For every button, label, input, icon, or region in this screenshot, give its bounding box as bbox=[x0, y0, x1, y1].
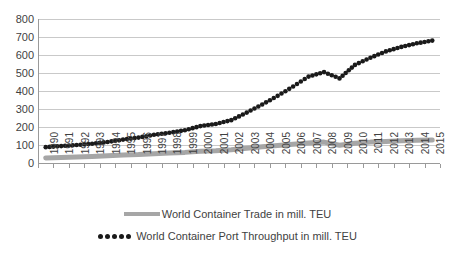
x-tickmark bbox=[115, 164, 116, 168]
x-tickmark bbox=[409, 164, 410, 168]
y-tick-label: 800 bbox=[0, 14, 34, 25]
x-tick-label: 1992 bbox=[81, 132, 91, 170]
x-tickmark bbox=[53, 164, 54, 168]
x-tickmark bbox=[100, 164, 101, 168]
gridline bbox=[38, 127, 440, 128]
container-trade-throughput-chart: 800 700 600 500 400 300 200 100 0 199019… bbox=[0, 0, 453, 253]
gridline bbox=[38, 73, 440, 74]
x-tick-label: 1994 bbox=[112, 132, 122, 170]
y-tick-label: 100 bbox=[0, 140, 34, 151]
x-tickmark bbox=[332, 164, 333, 168]
x-tick-label: 1999 bbox=[189, 132, 199, 170]
x-tick-label: 2013 bbox=[405, 132, 415, 170]
x-tickmark bbox=[208, 164, 209, 168]
x-tick-label: 1998 bbox=[173, 132, 183, 170]
x-tickmark bbox=[177, 164, 178, 168]
y-axis-line bbox=[38, 19, 39, 164]
gridline bbox=[38, 19, 440, 20]
gray-line-marker-icon bbox=[122, 208, 162, 220]
y-tick-label: 700 bbox=[0, 32, 34, 43]
y-tick-label: 200 bbox=[0, 122, 34, 133]
x-tick-label: 1996 bbox=[143, 132, 153, 170]
x-tickmark bbox=[363, 164, 364, 168]
x-tick-label: 2008 bbox=[328, 132, 338, 170]
x-tickmark bbox=[285, 164, 286, 168]
x-tick-label: 2000 bbox=[204, 132, 214, 170]
x-tickmark bbox=[254, 164, 255, 168]
y-tick-label: 400 bbox=[0, 86, 34, 97]
x-tick-label: 2015 bbox=[436, 132, 446, 170]
legend-label-trade: World Container Trade in mill. TEU bbox=[162, 208, 332, 220]
x-tick-label: 2006 bbox=[297, 132, 307, 170]
black-dots-marker-icon bbox=[96, 230, 136, 242]
x-tickmark bbox=[224, 164, 225, 168]
x-tickmark bbox=[146, 164, 147, 168]
x-tickmark bbox=[84, 164, 85, 168]
x-tick-label: 2001 bbox=[220, 132, 230, 170]
x-tickmark bbox=[440, 164, 441, 168]
gridline bbox=[38, 109, 440, 110]
legend-label-throughput: World Container Port Throughput in mill.… bbox=[136, 230, 357, 242]
x-tickmark bbox=[162, 164, 163, 168]
x-tickmark bbox=[394, 164, 395, 168]
x-tick-label: 1997 bbox=[158, 132, 168, 170]
x-tick-label: 2014 bbox=[421, 132, 431, 170]
x-tick-label: 1995 bbox=[127, 132, 137, 170]
x-tick-label: 2010 bbox=[359, 132, 369, 170]
x-tickmark bbox=[378, 164, 379, 168]
x-tick-label: 2012 bbox=[390, 132, 400, 170]
x-tick-label: 2007 bbox=[313, 132, 323, 170]
x-tickmark bbox=[239, 164, 240, 168]
y-tick-label: 300 bbox=[0, 104, 34, 115]
y-tick-label: 600 bbox=[0, 50, 34, 61]
x-tickmark bbox=[316, 164, 317, 168]
gridline bbox=[38, 37, 440, 38]
gridline bbox=[38, 55, 440, 56]
x-tickmark bbox=[347, 164, 348, 168]
y-tick-label: 0 bbox=[0, 158, 34, 169]
x-tickmark bbox=[193, 164, 194, 168]
x-tickmark bbox=[69, 164, 70, 168]
x-tickmark bbox=[425, 164, 426, 168]
x-tick-label: 1993 bbox=[96, 132, 106, 170]
chart-legend: World Container Trade in mill. TEU World… bbox=[0, 203, 453, 247]
gridline bbox=[38, 91, 440, 92]
x-tick-label: 1991 bbox=[65, 132, 75, 170]
x-tickmark bbox=[270, 164, 271, 168]
x-tick-label: 2004 bbox=[266, 132, 276, 170]
x-tickmark bbox=[131, 164, 132, 168]
x-tickmark bbox=[301, 164, 302, 168]
x-tickmark bbox=[38, 164, 39, 168]
y-tick-label: 500 bbox=[0, 68, 34, 79]
legend-item-trade: World Container Trade in mill. TEU bbox=[0, 203, 453, 225]
x-tick-label: 2005 bbox=[282, 132, 292, 170]
x-tick-label: 2009 bbox=[344, 132, 354, 170]
x-tick-label: 2011 bbox=[374, 132, 384, 170]
x-tick-label: 2002 bbox=[235, 132, 245, 170]
x-tick-label: 2003 bbox=[251, 132, 261, 170]
x-tick-label: 1990 bbox=[50, 132, 60, 170]
legend-item-throughput: World Container Port Throughput in mill.… bbox=[0, 225, 453, 247]
